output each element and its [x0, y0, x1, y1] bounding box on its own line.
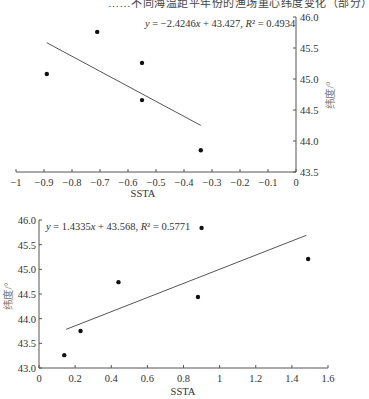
- data-point: [78, 329, 82, 333]
- x-tick-label: 1: [217, 373, 222, 384]
- data-points: [62, 226, 310, 358]
- data-point: [306, 257, 310, 261]
- x-tick-label: 1.6: [321, 373, 334, 384]
- y-tick-label: 45.0: [18, 264, 36, 275]
- y-tick-label: 46.0: [18, 215, 36, 226]
- x-tick-label: 1.2: [249, 373, 262, 384]
- y-axis: 43.043.544.044.545.045.546.0: [18, 215, 42, 374]
- y-tick-label: 44.0: [18, 314, 36, 325]
- x-tick-label: 1.4: [285, 373, 299, 384]
- data-point: [116, 280, 120, 284]
- y-tick-label: 44.5: [18, 289, 36, 300]
- y-axis-label: 纬度/°: [2, 282, 14, 309]
- x-tick-label: 0: [36, 373, 41, 384]
- x-axis-label: SSTA: [171, 386, 196, 397]
- data-point: [196, 295, 200, 299]
- x-axis: 00.20.40.60.811.21.41.6: [36, 365, 334, 384]
- x-tick-label: 0.4: [105, 373, 119, 384]
- x-tick-label: 0.2: [69, 373, 82, 384]
- y-tick-label: 43.5: [18, 338, 36, 349]
- y-tick-label: 45.5: [18, 240, 36, 251]
- trendline-equation: y = 1.4335x + 43.568, R² = 0.5771: [45, 221, 190, 232]
- data-point: [62, 353, 66, 357]
- data-point: [199, 226, 203, 230]
- y-tick-label: 43.0: [18, 363, 36, 374]
- x-tick-label: 0.6: [141, 373, 154, 384]
- trendline: [66, 235, 306, 329]
- x-tick-label: 0.8: [177, 373, 190, 384]
